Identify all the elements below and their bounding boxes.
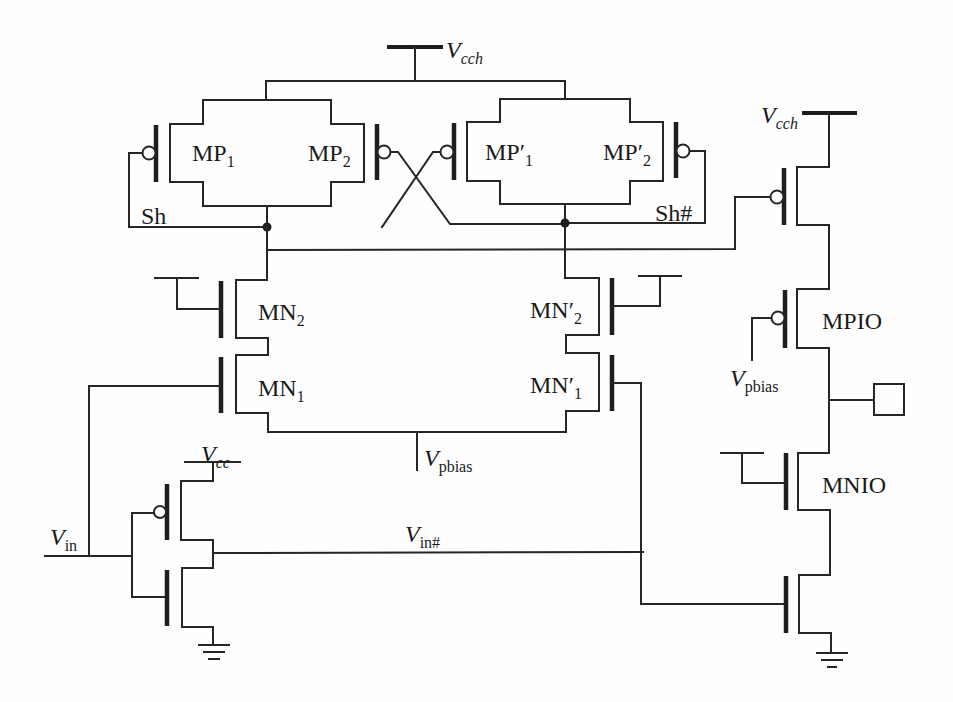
input-inverter [45, 462, 643, 659]
mp2-label: MP2 [308, 141, 351, 170]
mpio-bubble [772, 312, 785, 325]
mp1p-label: MP′1 [485, 140, 533, 169]
mp2p-bubble [677, 145, 690, 158]
mn-left-stack [89, 276, 786, 604]
mn1-label: MN1 [258, 376, 305, 405]
pullup-bubble [771, 191, 784, 204]
vpbias-right-label: Vpbias [730, 366, 778, 395]
inv-pmos-bubble [154, 506, 166, 518]
vin-bar-label: Vin# [405, 522, 440, 551]
mn2p-label: MN′2 [530, 298, 582, 327]
vpbias-center-label: Vpbias [424, 446, 472, 475]
mnio-label: MNIO [822, 473, 886, 497]
mp2p-label: MP′2 [603, 140, 651, 169]
schematic-drawing [0, 0, 953, 702]
circuit-schematic: Vcch Vcch MP1 MP2 MP′1 MP′2 Sh Sh# MN2 M… [0, 0, 953, 702]
mp2-bubble [378, 146, 391, 159]
vcch-right-label: Vcch [761, 103, 798, 132]
vcch-top-supply [266, 47, 565, 100]
mp1-label: MP1 [192, 141, 235, 170]
mp1p-mp2p-block [382, 99, 705, 278]
sh-label: Sh [141, 204, 166, 228]
vcc-label: Vcc [201, 442, 230, 471]
vin-label: Vin [50, 525, 77, 554]
mp1-bubble [143, 147, 156, 160]
mpio-label: MPIO [822, 309, 882, 333]
mn1p-label: MN′1 [530, 373, 582, 402]
sh-bar-label: Sh# [655, 201, 692, 225]
node-right-junction [561, 219, 570, 228]
mp1p-bubble [441, 146, 454, 159]
io-pad [874, 384, 904, 415]
mn2-label: MN2 [258, 300, 305, 329]
vcch-top-label: Vcch [446, 38, 483, 67]
